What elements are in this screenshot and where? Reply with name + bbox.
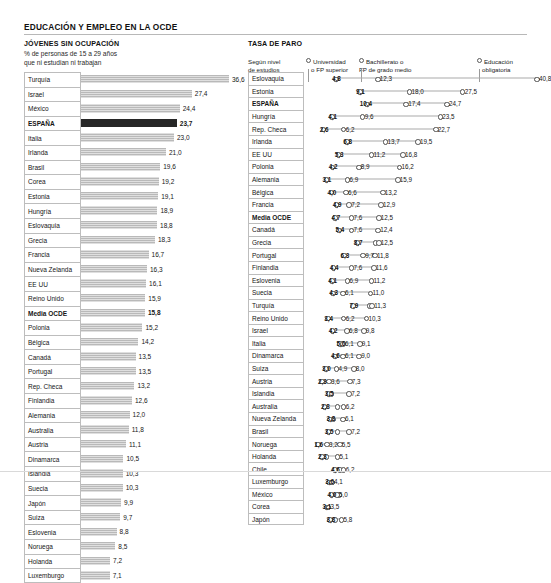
dot-row-label: Eslovenia	[248, 274, 304, 287]
data-point-label: 4,1	[328, 113, 337, 120]
bar	[81, 367, 136, 375]
bar-chart-row: Dinamarca10,5	[24, 451, 254, 466]
bar-row-plot: 12,6	[81, 393, 254, 408]
bar	[81, 498, 121, 506]
dot-row-label: EE UU	[248, 148, 304, 161]
bar-row-label: Holanda	[24, 554, 81, 569]
data-point-label: 6,3	[340, 251, 349, 258]
data-point-label: 3,8	[326, 516, 335, 523]
dot-chart-row: Finlandia4,47,611,6	[248, 261, 551, 274]
bar-chart-row: Italia23,0	[24, 130, 254, 145]
bar-row-label: Polonia	[24, 320, 81, 335]
title-divider	[24, 34, 527, 35]
left-panel-header: JÓVENES SIN OCUPACIÓN % de personas de 1…	[24, 40, 244, 67]
bar-value-label: 16,3	[150, 266, 163, 273]
bar	[81, 104, 180, 112]
bar-row-label: Israel	[24, 87, 81, 102]
bar-value-label: 11,8	[132, 426, 144, 433]
bar-row-label: Media OCDE	[24, 306, 81, 321]
data-point-label: 12,5	[381, 239, 393, 246]
data-point-label: 11,6	[376, 264, 388, 271]
data-point-label: 11,2	[374, 276, 386, 283]
data-point-label: 19,5	[420, 138, 432, 145]
data-point-label: 5,6	[337, 339, 346, 346]
bar-row-label: Brasil	[24, 160, 81, 175]
bar-value-label: 23,7	[180, 120, 193, 127]
dot-row-label: Media OCDE	[248, 211, 304, 224]
data-point-label: 13,7	[388, 138, 400, 145]
dot-row-plot: 8,712,5	[304, 236, 551, 249]
data-point-label: 4,4	[330, 264, 339, 271]
dot-chart-row: Portugal6,39,711,8	[248, 248, 551, 261]
bar	[81, 119, 177, 127]
data-point-label: 8,7	[354, 239, 363, 246]
dot-row-label: ESPAÑA	[248, 97, 304, 110]
data-point-label: 13,2	[385, 188, 397, 195]
dot-row-label: Estonia	[248, 85, 304, 98]
circle-marker-icon	[477, 58, 482, 63]
bar	[81, 309, 145, 317]
bar	[81, 148, 166, 156]
bar-row-plot: 7,1	[81, 568, 254, 583]
dot-chart-row: Italia5,66,19,1	[248, 336, 551, 349]
data-point-label: 17,4	[408, 100, 420, 107]
data-point-label: 6,9	[350, 176, 359, 183]
bar-row-label: Hungría	[24, 203, 81, 218]
data-point-marker	[335, 404, 341, 410]
data-point-label: 4,1	[334, 478, 343, 485]
bar-row-label: Portugal	[24, 364, 81, 379]
data-point-label: 7,2	[351, 201, 360, 208]
dot-chart-row: Grecia8,712,5	[248, 236, 551, 249]
bar	[81, 557, 110, 565]
data-point-label: 4,0	[328, 490, 337, 497]
data-point-label: 6,1	[345, 352, 354, 359]
bar	[81, 455, 123, 463]
bar-chart-row: Islandia10,3	[24, 466, 254, 481]
bar-value-label: 11,1	[129, 441, 141, 448]
data-point-label: 9,7	[365, 251, 374, 258]
bar-value-label: 24,4	[183, 105, 196, 112]
bar-chart-row: Hungría18,9	[24, 203, 254, 218]
data-point-label: 6,6	[348, 188, 357, 195]
bar-row-label: ESPAÑA	[24, 116, 81, 131]
bar-value-label: 15,8	[148, 309, 161, 316]
data-point-label: 3,4	[324, 314, 333, 321]
bar-value-label: 19,2	[162, 178, 175, 185]
dot-row-plot: 4,28,916,2	[304, 160, 551, 173]
bar	[81, 177, 159, 185]
data-point-label: 7,2	[351, 390, 360, 397]
dot-row-plot: 4,47,611,6	[304, 261, 551, 274]
bar-chart-row: Reino Unido15,9	[24, 291, 254, 306]
bar-row-label: Corea	[24, 174, 81, 189]
data-point-label: 24,7	[449, 100, 461, 107]
data-point-label: 4,2	[329, 327, 338, 334]
bar	[81, 279, 146, 287]
bar-row-plot: 18,3	[81, 233, 254, 248]
bar-chart-row: Noruega8,5	[24, 539, 254, 554]
dot-row-label: Chile	[248, 462, 304, 475]
dot-row-label: Francia	[248, 198, 304, 211]
bar-row-plot: 15,9	[81, 291, 254, 306]
dot-chart-row: Noruega1,63,25,5	[248, 437, 551, 450]
bar-row-plot: 16,7	[81, 247, 254, 262]
bar	[81, 236, 155, 244]
bar	[81, 294, 145, 302]
data-point-label: 4,8	[332, 75, 341, 82]
dot-chart-row: Chile4,66,2	[248, 462, 551, 475]
dot-row-plot: 4,06,613,2	[304, 185, 551, 198]
bar-row-label: Alemania	[24, 408, 81, 423]
dot-row-plot: 7,911,3	[304, 299, 551, 312]
bar-chart-row: Austria11,1	[24, 437, 254, 452]
bar-value-label: 8,8	[120, 528, 129, 535]
bar-chart-row: Polonia15,2	[24, 320, 254, 335]
bar-chart-row: EE UU16,1	[24, 276, 254, 291]
dot-row-label: Alemania	[248, 173, 304, 186]
dot-row-plot: 4,26,89,8	[304, 324, 551, 337]
dot-row-plot: 4,77,612,5	[304, 211, 551, 224]
bar-chart-row: Turquía36,6	[24, 72, 254, 87]
bar-row-label: Suiza	[24, 510, 81, 525]
bar-value-label: 13,5	[139, 368, 152, 375]
dot-chart-row: Irlanda6,813,719,5	[248, 135, 551, 148]
dot-chart-row: Bélgica4,06,613,2	[248, 185, 551, 198]
data-point-label: 4,2	[329, 163, 338, 170]
